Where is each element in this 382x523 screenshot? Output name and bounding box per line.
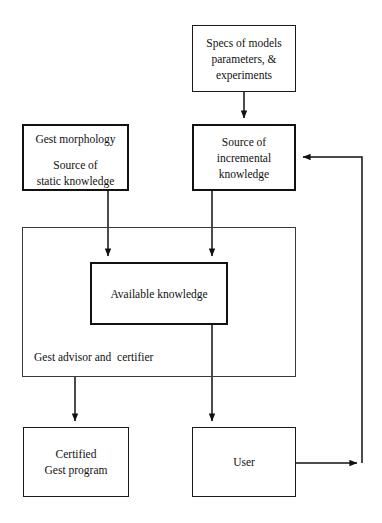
static-line-2: Source of — [53, 157, 97, 173]
specs-line-3: experiments — [216, 67, 272, 83]
source-of-incremental-knowledge-box[interactable]: Source of incremental knowledge — [192, 124, 296, 191]
available-knowledge-box[interactable]: Available knowledge — [90, 262, 228, 325]
static-line-3: static knowledge — [37, 173, 115, 189]
gest-advisor-and-certifier-label: Gest advisor and certifier — [34, 349, 153, 365]
certified-line-2: Gest program — [45, 462, 108, 478]
user-box[interactable]: User — [192, 427, 296, 497]
certified-gest-program-box[interactable]: Certified Gest program — [23, 427, 129, 497]
certified-line-1: Certified — [56, 446, 97, 462]
edge-user-feedback-to-incremental — [296, 157, 362, 463]
specs-of-models-box[interactable]: Specs of models parameters, & experiment… — [192, 25, 296, 92]
static-line-1: Gest morphology — [35, 131, 115, 147]
specs-line-1: Specs of models — [206, 35, 281, 51]
flowchart-canvas: Specs of models parameters, & experiment… — [0, 0, 382, 523]
user-line-1: User — [233, 454, 255, 470]
source-of-static-knowledge-box[interactable]: Gest morphology Source of static knowled… — [22, 124, 129, 191]
available-line-1: Available knowledge — [110, 286, 207, 302]
specs-line-2: parameters, & — [211, 51, 276, 67]
incremental-line-2: incremental — [217, 150, 271, 166]
incremental-line-3: knowledge — [219, 166, 269, 182]
incremental-line-1: Source of — [222, 134, 266, 150]
